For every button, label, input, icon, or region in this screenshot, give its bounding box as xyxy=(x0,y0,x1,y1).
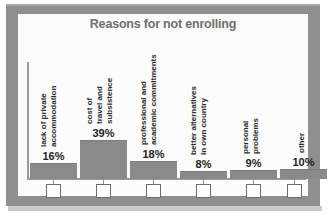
bar-value-1: 16% xyxy=(30,150,77,162)
bar-label-3-line2: academic commitments xyxy=(149,53,159,145)
outer-frame-shadow xyxy=(8,206,322,211)
checkbox-6[interactable] xyxy=(287,184,302,198)
checkbox-1[interactable] xyxy=(46,184,61,198)
bar-value-2: 39% xyxy=(80,127,127,139)
checkbox-4[interactable] xyxy=(196,184,211,198)
bar-group-6: 10% other xyxy=(280,30,327,179)
checkbox-3[interactable] xyxy=(146,184,161,198)
bar-value-5: 9% xyxy=(230,157,277,169)
bar-value-4: 8% xyxy=(180,158,227,170)
bar-personal-problems[interactable] xyxy=(230,170,277,179)
bar-label-4-line2: in own country xyxy=(199,97,209,155)
bar-label-3-line1: professional and xyxy=(139,77,149,145)
bar-group-4: 8% better alternatives in own country xyxy=(180,30,227,179)
bar-group-5: 9% personal problems xyxy=(230,30,277,179)
bar-better-alternatives-in-own-country[interactable] xyxy=(180,171,227,179)
bar-professional-and-academic-commitments[interactable] xyxy=(130,161,177,179)
outer-frame-highlight xyxy=(6,4,320,6)
bar-group-1: 16% lack of private accommodation xyxy=(30,30,77,179)
bar-other[interactable] xyxy=(280,169,327,179)
bar-label-2-line1: cost of xyxy=(85,90,95,124)
bar-value-6: 10% xyxy=(280,156,327,168)
chart-image: Reasons for not enrolling 16% lack of pr… xyxy=(0,0,328,220)
checkbox-2[interactable] xyxy=(96,184,111,198)
bar-group-3: 18% professional and academic commitment… xyxy=(130,30,177,179)
bar-label-5-line2: problems xyxy=(251,116,261,154)
bar-value-3: 18% xyxy=(130,148,177,160)
bar-lack-of-private-accommodation[interactable] xyxy=(30,163,77,179)
bar-label-2-line2: travel and xyxy=(95,76,105,124)
bar-cost-of-travel-and-subsistence[interactable] xyxy=(80,140,127,179)
bar-label-6-line1: other xyxy=(297,129,307,153)
bar-label-2-line3: subsistence xyxy=(105,74,115,124)
plot-area: 16% lack of private accommodation 39% co… xyxy=(28,30,307,179)
bar-label-5-line1: personal xyxy=(241,116,251,154)
checkbox-5[interactable] xyxy=(246,184,261,198)
bar-group-2: 39% cost of travel and subsistence xyxy=(80,30,127,179)
page-title: Reasons for not enrolling xyxy=(18,17,308,31)
bar-label-4-line1: better alternatives xyxy=(189,83,199,155)
bar-label-1-line1: lack of private xyxy=(39,85,49,147)
bar-label-1-line2: accommodation xyxy=(49,75,59,147)
